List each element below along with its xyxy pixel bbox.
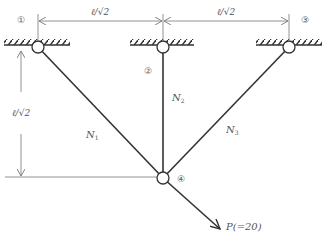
load-arrow (163, 178, 220, 229)
member-label-n3: N3 (225, 124, 239, 136)
node-label-4: ④ (177, 174, 185, 184)
member-n3 (163, 47, 289, 178)
node-label-2: ② (144, 66, 152, 76)
dim-label-left: ℓ/√2 (12, 108, 31, 118)
node-3-pin (283, 41, 295, 53)
node-label-3: ③ (301, 15, 309, 25)
dim-label-top-left: ℓ/√2 (91, 7, 110, 17)
member-label-n2: N2 (171, 92, 185, 104)
node-2-pin (157, 41, 169, 53)
truss-diagram: ℓ/√2 ℓ/√2 ℓ/√2 P(=20) N1 N2 N3 ① ② ③ ④ (0, 0, 326, 236)
node-4-joint (157, 172, 169, 184)
load-label: P(=20) (225, 221, 262, 232)
node-label-1: ① (17, 15, 25, 25)
dim-label-top-right: ℓ/√2 (217, 7, 236, 17)
member-label-n1: N1 (85, 129, 99, 141)
node-1-pin (32, 41, 44, 53)
